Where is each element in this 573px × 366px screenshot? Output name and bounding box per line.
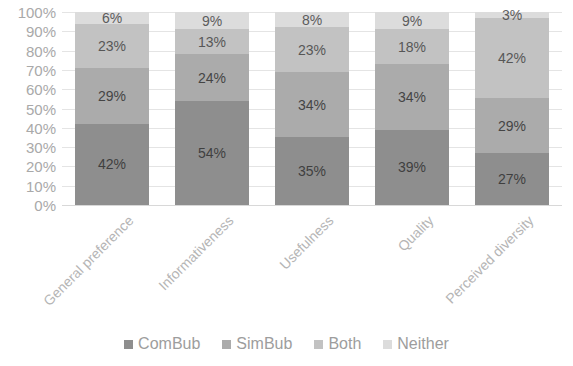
- bar-segment-both: 42%: [475, 18, 549, 98]
- legend-swatch-icon: [124, 340, 133, 349]
- bar-segment-value-label: 13%: [198, 35, 226, 49]
- category-label: Quality: [395, 213, 436, 254]
- legend-item-combub[interactable]: ComBub: [124, 336, 200, 352]
- bar-segment-neither: 8%: [275, 12, 349, 27]
- bar-general-preference: 42%29%23%6%: [75, 12, 149, 205]
- y-axis-tick-label: 50%: [26, 101, 56, 116]
- bar-segment-both: 23%: [75, 24, 149, 68]
- bar-perceived-diversity: 27%29%42%3%: [475, 12, 549, 205]
- legend-label: ComBub: [138, 336, 200, 352]
- bar-segment-simbub: 34%: [375, 64, 449, 130]
- y-axis-tick-label: 70%: [26, 62, 56, 77]
- y-axis-tick-label: 80%: [26, 43, 56, 58]
- y-axis-tick-label: 100%: [18, 5, 56, 20]
- bar-usefulness: 35%34%23%8%: [275, 12, 349, 205]
- y-axis-tick-label: 90%: [26, 24, 56, 39]
- bar-segment-value-label: 9%: [202, 14, 222, 28]
- y-axis-tick-label: 40%: [26, 120, 56, 135]
- y-axis-tick-label: 60%: [26, 82, 56, 97]
- bar-segment-value-label: 9%: [402, 14, 422, 28]
- y-axis-tick-label: 30%: [26, 140, 56, 155]
- bar-segment-neither: 3%: [475, 12, 549, 18]
- bar-segment-both: 23%: [275, 27, 349, 71]
- bar-segment-value-label: 35%: [298, 164, 326, 178]
- bar-segment-value-label: 8%: [302, 13, 322, 27]
- category-axis: General preferenceInformativenessUsefuln…: [62, 205, 562, 325]
- bar-segment-value-label: 39%: [398, 160, 426, 174]
- category-label: General preference: [41, 213, 136, 308]
- legend-swatch-icon: [383, 340, 392, 349]
- chart-legend: ComBubSimBubBothNeither: [0, 336, 573, 352]
- bar-segment-combub: 35%: [275, 137, 349, 205]
- bar-segment-value-label: 42%: [498, 51, 526, 65]
- bar-segment-value-label: 18%: [398, 40, 426, 54]
- y-axis-tick-label: 0%: [34, 198, 56, 213]
- bar-segment-value-label: 23%: [298, 43, 326, 57]
- bar-segment-value-label: 27%: [498, 172, 526, 186]
- bar-segment-simbub: 29%: [475, 98, 549, 153]
- bar-segment-value-label: 42%: [98, 157, 126, 171]
- bar-segment-value-label: 54%: [198, 146, 226, 160]
- bar-segment-value-label: 24%: [198, 71, 226, 85]
- bar-segment-neither: 6%: [75, 12, 149, 24]
- bar-segment-neither: 9%: [175, 12, 249, 29]
- y-axis-tick-label: 10%: [26, 178, 56, 193]
- bar-segment-combub: 27%: [475, 153, 549, 205]
- category-label: Usefulness: [277, 213, 336, 272]
- bar-segment-value-label: 29%: [98, 89, 126, 103]
- bar-segment-combub: 42%: [75, 124, 149, 205]
- category-label: Informativeness: [156, 213, 236, 293]
- legend-item-neither[interactable]: Neither: [383, 336, 449, 352]
- legend-item-both[interactable]: Both: [314, 336, 361, 352]
- plot-area: 42%29%23%6%54%24%13%9%35%34%23%8%39%34%1…: [62, 12, 562, 205]
- bars-layer: 42%29%23%6%54%24%13%9%35%34%23%8%39%34%1…: [62, 12, 562, 205]
- legend-label: Both: [328, 336, 361, 352]
- bar-segment-simbub: 34%: [275, 72, 349, 138]
- bar-segment-both: 13%: [175, 29, 249, 54]
- bar-segment-value-label: 29%: [498, 119, 526, 133]
- category-label: Perceived diversity: [443, 213, 536, 306]
- legend-swatch-icon: [314, 340, 323, 349]
- legend-label: SimBub: [236, 336, 292, 352]
- stacked-bar-chart: 0%10%20%30%40%50%60%70%80%90%100% 42%29%…: [0, 0, 573, 366]
- bar-segment-value-label: 6%: [102, 11, 122, 25]
- y-axis-tick-label: 20%: [26, 159, 56, 174]
- bar-segment-combub: 54%: [175, 101, 249, 205]
- bar-segment-value-label: 34%: [298, 98, 326, 112]
- bar-segment-neither: 9%: [375, 12, 449, 29]
- y-axis: 0%10%20%30%40%50%60%70%80%90%100%: [0, 12, 56, 205]
- legend-label: Neither: [397, 336, 449, 352]
- legend-item-simbub[interactable]: SimBub: [222, 336, 292, 352]
- bar-segment-value-label: 34%: [398, 90, 426, 104]
- bar-segment-simbub: 24%: [175, 54, 249, 100]
- bar-segment-value-label: 23%: [98, 39, 126, 53]
- bar-segment-both: 18%: [375, 29, 449, 64]
- bar-segment-simbub: 29%: [75, 68, 149, 124]
- legend-swatch-icon: [222, 340, 231, 349]
- bar-quality: 39%34%18%9%: [375, 12, 449, 205]
- bar-segment-value-label: 3%: [502, 8, 522, 22]
- bar-informativeness: 54%24%13%9%: [175, 12, 249, 205]
- bar-segment-combub: 39%: [375, 130, 449, 205]
